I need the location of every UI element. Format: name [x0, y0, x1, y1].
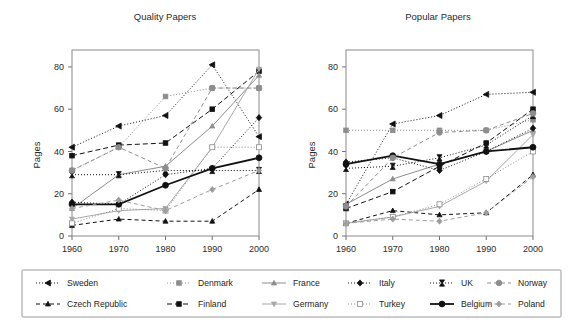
data-point-marker [484, 176, 489, 181]
data-point-marker [530, 111, 536, 117]
data-point-marker [210, 145, 215, 150]
data-point-marker [390, 189, 395, 194]
data-point-marker [483, 127, 489, 133]
x-tick-label: 2000 [249, 244, 269, 254]
data-point-marker [116, 144, 122, 150]
x-tick-label: 1990 [476, 244, 496, 254]
x-tick-label: 1980 [155, 244, 175, 254]
data-point-marker [209, 85, 215, 91]
legend-label: Finland [198, 299, 226, 309]
legend-label: Norway [518, 278, 548, 288]
y-tick-label: 40 [54, 147, 64, 157]
data-point-marker [437, 161, 443, 167]
x-tick-label: 1970 [109, 244, 129, 254]
y-tick-label: 20 [54, 189, 64, 199]
y-tick-label: 60 [328, 104, 338, 114]
x-tick-label: 1980 [429, 244, 449, 254]
data-point-marker [210, 107, 215, 112]
data-point-marker [163, 166, 169, 172]
legend-label: Germany [293, 299, 329, 309]
legend-label: Turkey [379, 299, 406, 309]
data-point-marker [343, 204, 349, 210]
panel-title-quality: Quality Papers [134, 11, 197, 22]
data-point-marker [209, 165, 215, 171]
y-axis-label-quality: Pages [31, 141, 42, 168]
legend: SwedenCzech RepublicDenmarkFinlandFrance… [22, 270, 561, 317]
x-tick-label: 1990 [202, 244, 222, 254]
figure-root: Quality Papers Pages 020406080 196019701… [0, 0, 583, 325]
x-tick-label: 1960 [62, 244, 82, 254]
legend-marker [358, 302, 363, 307]
y-tick-label: 0 [333, 231, 338, 241]
data-point-marker [163, 94, 168, 99]
y-tick-label: 60 [54, 104, 64, 114]
data-point-marker [343, 161, 349, 167]
data-point-marker [390, 155, 396, 161]
data-point-marker [70, 221, 75, 226]
x-tick-label: 2000 [523, 244, 543, 254]
legend-label: Italy [379, 278, 395, 288]
x-tick-label: 1960 [336, 244, 356, 254]
data-point-marker [70, 153, 75, 158]
data-point-marker [530, 144, 536, 150]
y-tick-label: 40 [328, 147, 338, 157]
legend-label: Sweden [67, 278, 98, 288]
data-point-marker [257, 145, 262, 150]
data-point-marker [437, 130, 443, 136]
legend-label: UK [461, 278, 473, 288]
data-point-marker [256, 85, 262, 91]
data-point-marker [437, 202, 442, 207]
legend-label: France [293, 278, 320, 288]
legend-marker [496, 280, 502, 286]
legend-marker [439, 301, 445, 307]
y-tick-label: 80 [328, 62, 338, 72]
legend-label: Poland [518, 299, 545, 309]
data-point-marker [256, 155, 262, 161]
y-tick-label: 80 [54, 62, 64, 72]
y-tick-label: 20 [328, 189, 338, 199]
legend-marker [177, 302, 182, 307]
legend-label: Denmark [198, 278, 234, 288]
x-tick-label: 1970 [383, 244, 403, 254]
panel-title-popular: Popular Papers [405, 11, 471, 22]
legend-marker [177, 281, 182, 286]
data-point-marker [390, 128, 395, 133]
legend-border [22, 270, 561, 317]
y-axis-label-popular: Pages [306, 141, 317, 168]
y-tick-label: 0 [59, 231, 64, 241]
data-point-marker [483, 149, 489, 155]
data-point-marker [69, 168, 75, 174]
data-point-marker [163, 141, 168, 146]
data-point-marker [163, 182, 169, 188]
legend-label: Czech Republic [67, 299, 128, 309]
data-point-marker [344, 128, 349, 133]
